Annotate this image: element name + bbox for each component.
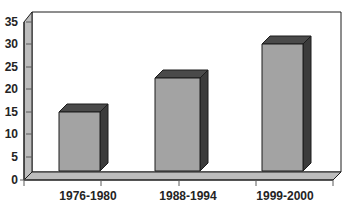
y-tick-label-20: 20: [5, 82, 19, 96]
chart-canvas: 0 5 10 15 20 25 30 35 1976-1980 1988-199…: [0, 0, 352, 209]
axis-left-wall: [24, 12, 32, 180]
bar-front-face: [59, 112, 100, 171]
y-tick-label-5: 5: [11, 150, 18, 164]
bar-side-face: [303, 36, 311, 171]
y-tick-label-25: 25: [5, 60, 19, 74]
bar-1976-1980: [59, 104, 108, 171]
bar-chart-figure: 0 5 10 15 20 25 30 35 1976-1980 1988-199…: [0, 0, 352, 209]
y-tick-label-0: 0: [11, 173, 18, 187]
y-tick-label-10: 10: [5, 127, 19, 141]
y-tick-label-35: 35: [5, 15, 19, 29]
x-tick-label-1999-2000: 1999-2000: [256, 189, 314, 203]
x-tick-label-1988-1994: 1988-1994: [159, 189, 217, 203]
y-tick-label-15: 15: [5, 105, 19, 119]
bar-front-face: [155, 78, 200, 171]
y-tick-label-30: 30: [5, 37, 19, 51]
axis-floor: [24, 172, 341, 180]
bar-side-face: [100, 104, 108, 171]
x-tick-label-1976-1980: 1976-1980: [59, 189, 117, 203]
bar-front-face: [262, 44, 303, 171]
bar-top-face: [155, 70, 208, 78]
x-axis-ticks: [24, 180, 333, 186]
bar-1999-2000: [262, 36, 311, 171]
bar-1988-1994: [155, 70, 208, 171]
bar-side-face: [200, 70, 208, 171]
